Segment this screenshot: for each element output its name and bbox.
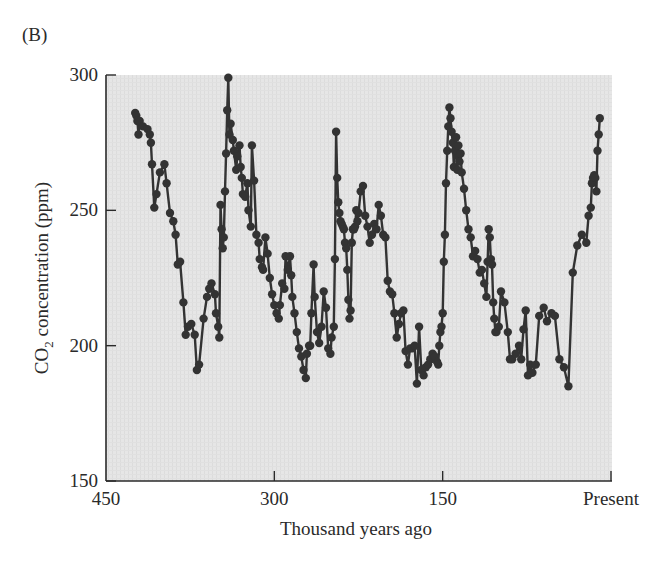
data-point bbox=[280, 285, 288, 293]
data-point bbox=[540, 304, 548, 312]
data-point bbox=[233, 152, 241, 160]
data-point bbox=[435, 342, 443, 350]
data-point bbox=[410, 342, 418, 350]
data-point bbox=[486, 233, 494, 241]
data-point bbox=[320, 287, 328, 295]
data-point bbox=[528, 369, 536, 377]
data-point bbox=[224, 74, 232, 82]
data-point bbox=[250, 176, 258, 184]
data-point bbox=[306, 342, 314, 350]
data-point bbox=[307, 309, 315, 317]
data-point bbox=[315, 339, 323, 347]
data-point bbox=[150, 203, 158, 211]
data-point bbox=[442, 179, 450, 187]
data-point bbox=[326, 350, 334, 358]
data-point bbox=[415, 323, 423, 331]
data-point bbox=[263, 249, 271, 257]
data-point bbox=[335, 209, 343, 217]
data-point bbox=[445, 103, 453, 111]
x-tick-label: 300 bbox=[260, 488, 289, 509]
data-point bbox=[171, 231, 179, 239]
data-point bbox=[467, 233, 475, 241]
data-point bbox=[162, 179, 170, 187]
data-point bbox=[595, 130, 603, 138]
data-point bbox=[191, 331, 199, 339]
data-point bbox=[578, 231, 586, 239]
data-point bbox=[207, 279, 215, 287]
data-point bbox=[226, 120, 234, 128]
data-point bbox=[375, 201, 383, 209]
data-point bbox=[434, 360, 442, 368]
data-point bbox=[199, 314, 207, 322]
data-point bbox=[462, 206, 470, 214]
data-point bbox=[517, 355, 525, 363]
data-point bbox=[564, 382, 572, 390]
data-point bbox=[458, 168, 466, 176]
y-tick-label: 150 bbox=[70, 470, 99, 491]
data-point bbox=[551, 312, 559, 320]
data-point bbox=[584, 212, 592, 220]
data-point bbox=[393, 333, 401, 341]
data-point bbox=[311, 293, 319, 301]
data-point bbox=[254, 239, 262, 247]
y-axis-title: CO2 concentration (ppm) bbox=[31, 182, 56, 374]
data-point bbox=[346, 306, 354, 314]
data-point bbox=[247, 222, 255, 230]
data-point bbox=[327, 333, 335, 341]
data-point bbox=[176, 258, 184, 266]
data-point bbox=[287, 271, 295, 279]
data-point bbox=[303, 350, 311, 358]
data-point bbox=[395, 320, 403, 328]
data-point bbox=[290, 309, 298, 317]
data-point bbox=[152, 190, 160, 198]
data-point bbox=[223, 106, 231, 114]
y-tick-label: 300 bbox=[70, 64, 99, 85]
data-point bbox=[419, 371, 427, 379]
data-point bbox=[500, 298, 508, 306]
data-point bbox=[471, 247, 479, 255]
data-point bbox=[555, 355, 563, 363]
data-point bbox=[276, 301, 284, 309]
data-point bbox=[384, 277, 392, 285]
data-point bbox=[515, 342, 523, 350]
data-point bbox=[377, 212, 385, 220]
co2-chart: 450300150Present 300250200150 Thousand y… bbox=[0, 0, 672, 568]
data-point bbox=[569, 268, 577, 276]
data-point bbox=[195, 360, 203, 368]
data-point bbox=[399, 306, 407, 314]
data-point bbox=[266, 274, 274, 282]
data-point bbox=[381, 233, 389, 241]
data-point bbox=[330, 323, 338, 331]
data-point bbox=[478, 266, 486, 274]
data-point bbox=[244, 206, 252, 214]
data-point bbox=[495, 323, 503, 331]
data-point bbox=[504, 328, 512, 336]
data-point bbox=[353, 217, 361, 225]
data-point bbox=[211, 290, 219, 298]
data-point bbox=[169, 217, 177, 225]
data-point bbox=[212, 309, 220, 317]
data-point bbox=[215, 333, 223, 341]
data-point bbox=[256, 255, 264, 263]
data-point bbox=[497, 287, 505, 295]
data-point bbox=[332, 128, 340, 136]
data-point bbox=[464, 225, 472, 233]
data-point bbox=[220, 233, 228, 241]
data-point bbox=[217, 225, 225, 233]
data-point bbox=[160, 160, 168, 168]
data-point bbox=[489, 298, 497, 306]
data-point bbox=[591, 174, 599, 182]
data-point bbox=[519, 325, 527, 333]
data-point bbox=[268, 290, 276, 298]
data-point bbox=[460, 185, 468, 193]
data-point bbox=[166, 209, 174, 217]
data-point bbox=[488, 260, 496, 268]
data-point bbox=[372, 225, 380, 233]
y-tick-label: 250 bbox=[70, 199, 99, 220]
data-point bbox=[331, 255, 339, 263]
data-point bbox=[446, 114, 454, 122]
data-point bbox=[214, 323, 222, 331]
data-point bbox=[543, 317, 551, 325]
data-point bbox=[535, 312, 543, 320]
data-point bbox=[348, 239, 356, 247]
